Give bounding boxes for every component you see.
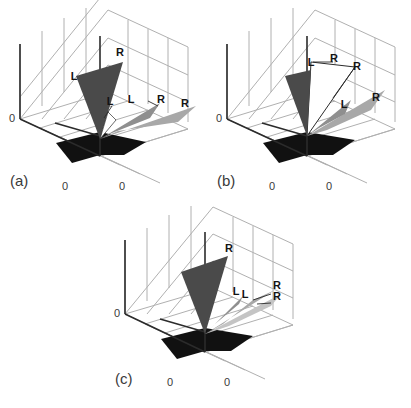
- panel-c: R L L R R 0 0 0 (c): [103, 204, 309, 408]
- tick-y: 0: [326, 180, 332, 192]
- panel-c-caption: (c): [115, 370, 133, 387]
- label-apex-r: R: [353, 60, 361, 72]
- label-dark-cone-r: R: [116, 46, 124, 58]
- dark-cone: [285, 70, 311, 136]
- panel-c-plot: R L L R R 0 0 0: [103, 204, 309, 408]
- dark-cone: [76, 62, 123, 139]
- label-inner-l-1: L: [233, 285, 240, 297]
- label-dark-cone-l: L: [71, 70, 78, 82]
- tick-x: 0: [167, 376, 173, 388]
- tick-z: 0: [9, 112, 15, 124]
- label-light-beam-r: R: [157, 93, 165, 105]
- panel-a: R L L L R R 0 0 0 (a): [0, 0, 206, 204]
- tick-x: 0: [269, 180, 275, 192]
- label-white-lobe-l: L: [308, 56, 315, 68]
- tick-x: 0: [62, 180, 68, 192]
- label-light-beam-l: L: [128, 93, 135, 105]
- panel-b-plot: L R R L R 0 0 0: [205, 0, 411, 204]
- tick-z: 0: [216, 112, 222, 124]
- tick-y: 0: [224, 376, 230, 388]
- label-outer-r: R: [181, 97, 189, 109]
- label-white-lobe-r: R: [330, 52, 338, 64]
- label-inner-l: L: [107, 95, 114, 107]
- tick-z: 0: [114, 307, 120, 319]
- panel-b: L R R L R 0 0 0 (b): [205, 0, 411, 204]
- panel-b-caption: (b): [217, 172, 235, 189]
- label-outer-r: R: [372, 91, 380, 103]
- label-inner-l-2: L: [242, 288, 249, 300]
- label-beam-r-2: R: [273, 290, 281, 302]
- floor-patch-right: [307, 132, 355, 155]
- label-dark-cone-r: R: [225, 242, 233, 254]
- label-light-beam-l: L: [341, 98, 348, 110]
- panel-a-caption: (a): [10, 172, 28, 189]
- panel-a-plot: R L L L R R 0 0 0: [0, 0, 206, 204]
- tick-y: 0: [119, 180, 125, 192]
